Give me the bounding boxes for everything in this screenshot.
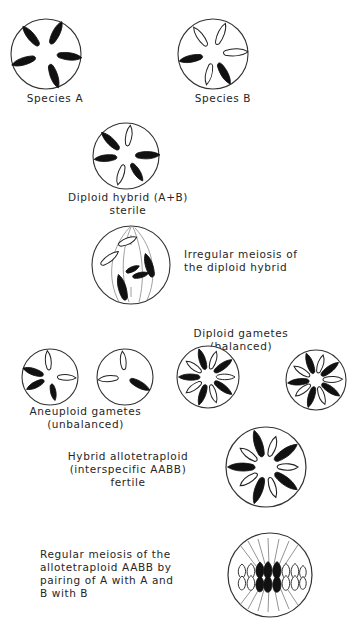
diploid-gamete-2 [281,345,351,415]
species-a-cell [6,14,86,94]
chromosome-light [300,577,307,590]
aneuploid-gamete-2-figure [92,344,158,410]
irregular-meiosis-label: Irregular meiosis of the diploid hybrid [184,248,354,274]
chromosome-light [238,576,245,590]
species-b-figure [173,14,253,94]
diploid-hybrid-figure [88,118,164,194]
species-a-label: Species A [0,92,110,105]
irregular-meiosis-cell [87,219,175,311]
regular-meiosis-cell [222,527,318,623]
diploid-gamete-1 [172,341,244,413]
diploid-hybrid-label: Diploid hybrid (A+B) sterile [48,191,208,217]
irregular-meiosis-figure [87,219,175,311]
allopolyploid-speciation-diagram: Species A Species B [0,0,355,627]
diploid-gamete-1-figure [172,341,244,413]
chromosome-light [216,374,235,380]
aneuploid-gamete-1 [17,344,83,410]
species-b-label: Species B [168,92,278,105]
regular-meiosis-label: Regular meiosis of the allotetraploid AA… [40,548,225,600]
allotetraploid-figure [220,421,312,513]
allotetraploid-cell [220,421,312,513]
diploid-hybrid-cell [88,118,164,194]
species-a-figure [6,14,86,94]
aneuploid-gametes-label: Aneuploid gametes (unbalanced) [3,405,168,431]
species-b-cell [173,14,253,94]
regular-meiosis-figure [222,527,318,623]
diploid-gamete-2-figure [281,345,351,415]
aneuploid-gamete-2 [92,344,158,410]
hybrid-allotetraploid-label: Hybrid allotetraploid (interspecific AAB… [28,450,228,489]
aneuploid-gamete-1-figure [17,344,83,410]
